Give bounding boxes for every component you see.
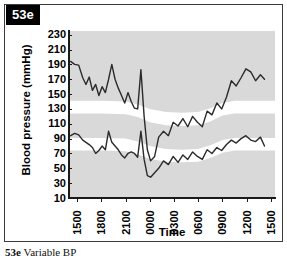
x-tick-mark — [222, 197, 223, 202]
y-tick-label: 70 — [26, 148, 66, 159]
y-tick-label: 10 — [26, 193, 66, 204]
x-tick-mark — [174, 197, 175, 202]
y-tick-mark — [68, 35, 72, 36]
y-tick-label: 150 — [26, 89, 66, 100]
y-tick-label: 90 — [26, 133, 66, 144]
figure-panel: 53e 2302101901701501301109070503010 1500… — [0, 0, 287, 262]
y-tick-label: 230 — [26, 29, 66, 40]
y-tick-mark — [68, 94, 72, 95]
y-tick-mark — [68, 198, 72, 199]
y-tick-mark — [68, 50, 72, 51]
y-axis-title: Blood pressure (mmHg) — [20, 40, 32, 180]
y-tick-mark — [68, 153, 72, 154]
y-tick-label: 170 — [26, 74, 66, 85]
y-tick-label: 50 — [26, 163, 66, 174]
x-tick-mark — [247, 197, 248, 202]
y-tick-label: 110 — [26, 118, 66, 129]
y-tick-mark — [68, 109, 72, 110]
y-tick-label: 130 — [26, 103, 66, 114]
systolic-normal-band — [69, 101, 275, 126]
caption-number: 53e — [5, 246, 21, 258]
x-tick-mark — [101, 197, 102, 202]
y-tick-label: 30 — [26, 178, 66, 189]
x-tick-mark — [77, 197, 78, 202]
y-tick-mark — [68, 124, 72, 125]
x-tick-mark — [271, 197, 272, 202]
y-axis-line — [68, 30, 70, 199]
x-tick-mark — [126, 197, 127, 202]
x-tick-mark — [150, 197, 151, 202]
x-axis-title: Time — [69, 226, 275, 238]
y-tick-label: 210 — [26, 44, 66, 55]
x-axis-line — [68, 197, 276, 199]
caption-text: Variable BP — [23, 246, 76, 258]
y-tick-mark — [68, 168, 72, 169]
y-tick-mark — [68, 139, 72, 140]
y-tick-label: 190 — [26, 59, 66, 70]
panel-label-tag: 53e — [6, 5, 40, 25]
chart-canvas — [69, 31, 275, 198]
y-tick-mark — [68, 183, 72, 184]
y-tick-mark — [68, 79, 72, 80]
normal-range-bands — [69, 101, 275, 163]
plot-area — [69, 31, 275, 198]
figure-caption: 53e Variable BP — [5, 246, 283, 259]
y-tick-mark — [68, 64, 72, 65]
x-tick-mark — [198, 197, 199, 202]
